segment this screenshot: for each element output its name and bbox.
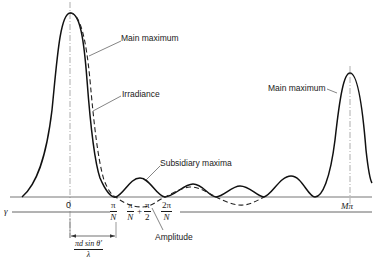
dimension-arrow-left [71,234,76,237]
label-main-maximum-left: Main maximum [121,34,179,43]
dimension-denominator: λ [87,250,90,259]
tick-2pi-over-n-den: N [164,212,170,222]
leader-main-maximum-right [327,89,337,93]
leader-subsidiary-maxima [146,166,160,180]
tick-pi-over-n-plus-first: π N [127,201,134,222]
tick-plus-sign: + [137,207,142,216]
dimension-label: πd sin θ' λ [74,240,103,259]
axis-variable-gamma: γ [4,207,8,216]
tick-origin: 0 [66,201,71,210]
tick-pi-over-2-num: π [144,201,151,212]
tick-pi-over-n-den: N [110,212,116,222]
label-irradiance: Irradiance [122,90,160,99]
tick-2pi-over-n: 2π N [161,201,172,222]
leader-main-maximum-left [89,41,121,56]
dimension-arrow-right [110,234,115,237]
label-subsidiary-maxima: Subsidiary maxima [160,159,232,168]
irradiance-curve [22,13,372,197]
tick-frac1-num: π [127,201,134,212]
interference-diagram [0,0,379,264]
tick-pi-over-n: π N [110,201,117,222]
tick-pi-over-2-den: 2 [145,212,150,222]
tick-frac1-den: N [127,212,133,222]
dimension-numerator: πd sin θ' [74,240,103,250]
tick-2pi-over-n-num: 2π [161,201,172,212]
tick-m-pi: Mπ [341,202,353,211]
label-amplitude: Amplitude [155,233,193,242]
tick-pi-over-n-num: π [110,201,117,212]
tick-pi-over-2: π 2 [144,201,151,222]
label-main-maximum-right: Main maximum [268,84,326,93]
leader-irradiance [93,96,121,111]
